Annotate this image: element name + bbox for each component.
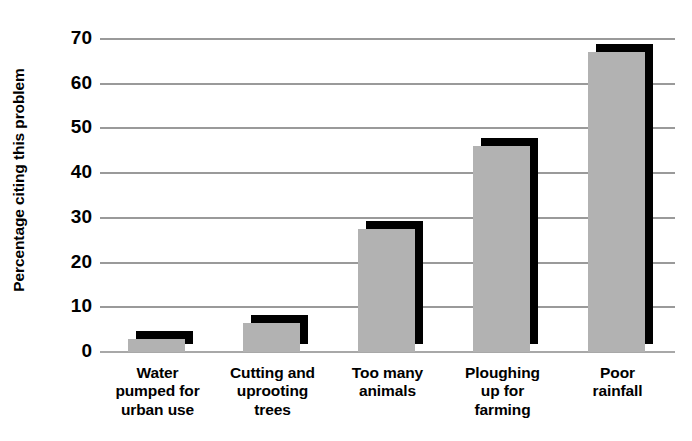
bar [473,138,538,352]
y-tick-label-0: 0 [48,341,92,360]
x-category-label-line: urban use [92,401,223,419]
x-category-label-line: Too many [322,364,453,382]
bar-fill [358,229,415,352]
x-category-label-line: farming [437,401,568,419]
x-category-label: Waterpumped forurban use [92,364,223,419]
x-category-label-line: pumped for [92,382,223,400]
gridline-70 [100,38,675,40]
bar-fill [588,52,645,352]
x-category-label-line: Ploughing [437,364,568,382]
y-tick-label-10: 10 [48,296,92,315]
x-category-label-line: Cutting and [207,364,338,382]
x-category-label-line: trees [207,401,338,419]
x-axis-category-labels: Waterpumped forurban useCutting anduproo… [100,364,675,441]
bar-fill [243,323,300,352]
x-category-label: Too manyanimals [322,364,453,401]
bar [588,44,653,352]
y-tick-label-20: 20 [48,252,92,271]
x-category-label-line: rainfall [552,382,683,400]
y-tick-label-70: 70 [48,28,92,47]
bar-chart: Percentage citing this problem 706050403… [0,0,692,441]
bar-fill [473,146,530,352]
bar-fill [128,339,185,352]
x-category-label: Ploughingup forfarming [437,364,568,419]
x-category-label-line: uprooting [207,382,338,400]
plot-area [100,30,675,360]
y-tick-label-30: 30 [48,207,92,226]
bar [128,331,193,352]
x-category-label: Poorrainfall [552,364,683,401]
bar [358,221,423,352]
x-category-label-line: up for [437,382,568,400]
bar [243,315,308,352]
x-category-label-line: Water [92,364,223,382]
y-axis-tick-labels: 706050403020100 [40,30,92,360]
x-category-label: Cutting anduprootingtrees [207,364,338,419]
y-tick-label-50: 50 [48,117,92,136]
x-category-label-line: Poor [552,364,683,382]
y-axis-title: Percentage citing this problem [0,0,38,360]
y-tick-label-40: 40 [48,162,92,181]
y-axis-title-text: Percentage citing this problem [10,68,28,292]
y-tick-label-60: 60 [48,73,92,92]
x-category-label-line: animals [322,382,453,400]
